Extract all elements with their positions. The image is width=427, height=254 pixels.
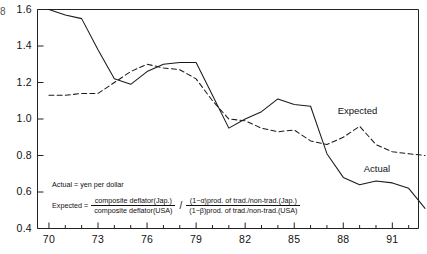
productivity-numerator: (1−α)prod. of trad./non-trad.(Jap.): [187, 196, 300, 205]
x-tick-label: 82: [232, 233, 258, 245]
y-tick-label: 1.4: [2, 39, 32, 51]
y-tick-label: 1.2: [2, 76, 32, 88]
formula-fraction-deflators: composite deflator(Jap.) composite defla…: [91, 196, 175, 215]
deflator-denominator: composite deflator(USA): [91, 205, 175, 215]
productivity-denominator: (1−β)prod. of trad./non-trad.(USA): [186, 205, 300, 215]
line-chart-plot: [0, 0, 427, 254]
expected-formula-label: Expected =: [52, 201, 88, 210]
x-tick-label: 70: [36, 233, 62, 245]
x-tick-label: 85: [281, 233, 307, 245]
series-label-actual: Actual: [364, 163, 390, 174]
y-tick-label: 1.0: [2, 112, 32, 124]
y-tick-label: 0.4: [2, 222, 32, 234]
x-tick-label: 79: [183, 233, 209, 245]
x-tick-label: 88: [330, 233, 356, 245]
x-tick-label: 91: [379, 233, 405, 245]
y-tick-label: 0.6: [2, 185, 32, 197]
x-tick-label: 76: [134, 233, 160, 245]
chart-container: 8 1.61.41.21.00.80.60.4 7073767982858891…: [0, 0, 427, 254]
formula-divider: /: [178, 200, 183, 211]
series-label-expected: Expected: [338, 105, 378, 116]
actual-definition-text: Actual = yen per dollar: [52, 180, 124, 189]
expected-formula: Expected = composite deflator(Jap.) comp…: [52, 196, 300, 215]
y-tick-label: 1.6: [2, 3, 32, 15]
deflator-numerator: composite deflator(Jap.): [92, 196, 175, 205]
y-tick-label: 0.8: [2, 149, 32, 161]
formula-fraction-productivity: (1−α)prod. of trad./non-trad.(Jap.) (1−β…: [186, 196, 300, 215]
x-tick-label: 73: [85, 233, 111, 245]
